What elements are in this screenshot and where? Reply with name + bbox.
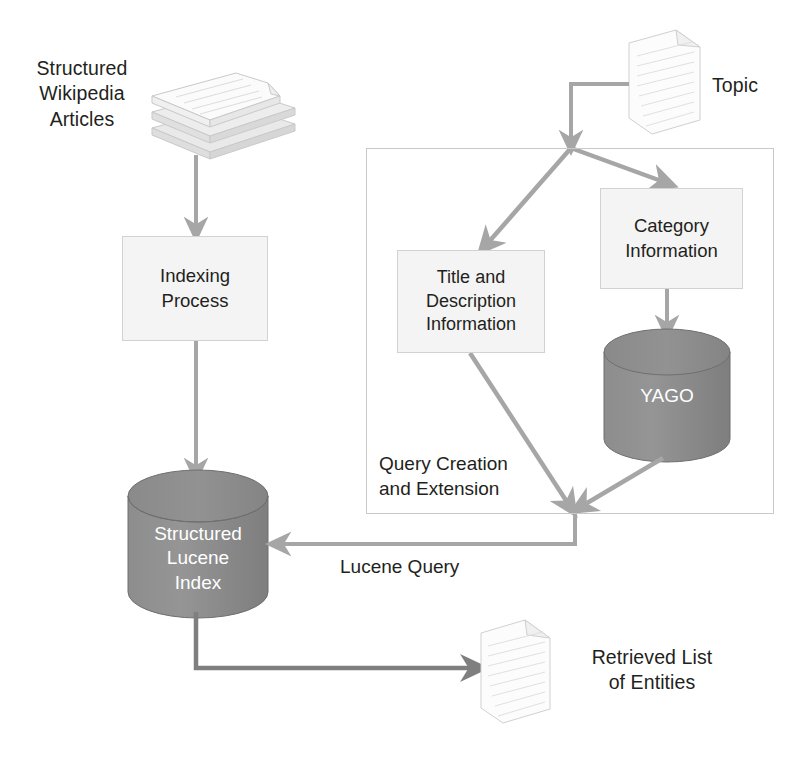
category-information-box[interactable]: Category Information [600,188,743,289]
query-creation-group-caption: Query Creation and Extension [379,451,579,501]
diagram-canvas: Query Creation and Extension Indexing Pr… [0,0,812,760]
structured-lucene-index-label: Structured Lucene Index [128,522,268,595]
structured-wikipedia-articles-label: Structured Wikipedia Articles [17,56,147,132]
stacked-documents-icon [152,73,295,159]
edge-topic-to-junction [571,84,629,142]
edge-index-to-results [196,612,474,668]
edge-query-to-index [279,515,575,544]
retrieved-list-of-entities-label: Retrieved List of Entities [562,645,742,696]
topic-label: Topic [712,73,792,98]
indexing-process-box[interactable]: Indexing Process [122,236,268,341]
result-document-icon [481,620,550,723]
lucene-query-edge-label: Lucene Query [340,556,459,578]
title-and-description-information-box[interactable]: Title and Description Information [397,250,545,353]
structured-lucene-index-cylinder [128,470,268,618]
topic-document-icon [629,30,700,134]
